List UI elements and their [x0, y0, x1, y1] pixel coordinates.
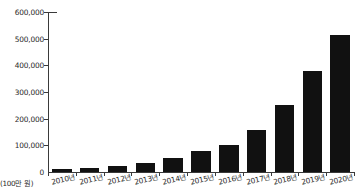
y-axis-label-group: 600,000500,000400,000300,000200,000100,0… — [0, 0, 44, 195]
bar — [219, 145, 238, 172]
x-axis-tick-label: 2019년 — [300, 171, 326, 187]
y-axis-tick-mark — [44, 145, 49, 146]
bar-chart-figure: 600,000500,000400,000300,000200,000100,0… — [0, 0, 358, 195]
x-axis-tick-mark — [354, 172, 355, 176]
x-axis-tick-label: 2018년 — [272, 171, 298, 187]
bar — [247, 130, 266, 172]
bar — [303, 71, 322, 172]
y-axis-tick-label: 400,000 — [0, 61, 44, 70]
y-axis-tick-mark — [44, 39, 49, 40]
y-axis-tick-label: 0 — [0, 168, 44, 177]
bar — [330, 35, 349, 172]
x-axis-tick-label: 2013년 — [133, 171, 159, 187]
plot-area — [48, 12, 354, 172]
y-axis-tick-label: 600,000 — [0, 8, 44, 17]
y-axis-tick-label: 500,000 — [0, 34, 44, 43]
y-axis-tick-label: 200,000 — [0, 114, 44, 123]
x-axis-label-group: 2010년2011년2012년2013년2014년2015년2016년2017년… — [48, 172, 354, 195]
x-axis-tick-label: 2011년 — [78, 171, 104, 187]
y-axis-unit-label: (100만 원) — [0, 178, 33, 188]
x-axis-tick-label: 2010년 — [50, 171, 76, 187]
y-axis-tick-mark — [44, 92, 49, 93]
y-axis-tick-mark — [44, 12, 49, 13]
y-axis-tick-mark — [44, 65, 49, 66]
x-axis-tick-label: 2020년 — [328, 171, 354, 187]
x-axis-tick-label: 2012년 — [106, 171, 132, 187]
bar — [163, 158, 182, 172]
bar — [275, 105, 294, 172]
bars-layer — [48, 12, 354, 172]
x-axis-tick-label: 2014년 — [161, 171, 187, 187]
x-axis-tick-label: 2015년 — [189, 171, 215, 187]
y-axis-tick-label: 100,000 — [0, 141, 44, 150]
y-axis-tick-label: 300,000 — [0, 88, 44, 97]
x-axis-tick-label: 2016년 — [217, 171, 243, 187]
x-axis-tick-label: 2017년 — [245, 171, 271, 187]
bar — [191, 151, 210, 172]
y-axis-tick-mark — [44, 119, 49, 120]
